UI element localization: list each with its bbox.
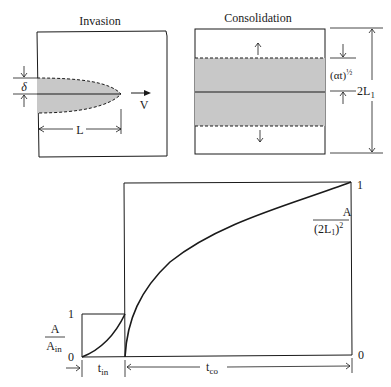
- right-axis-denominator: (2L1)2: [314, 221, 343, 237]
- consolidation-curve: [125, 182, 351, 357]
- consolidation-panel: Consolidation (αt)½ 2L1: [195, 11, 383, 154]
- left-tick-1: 1: [68, 307, 74, 321]
- time-axis: [82, 355, 352, 357]
- diagram-canvas: Invasion δ V L Consolidation: [0, 0, 391, 387]
- invasion-graph-frame: [82, 314, 125, 357]
- right-tick-1: 1: [357, 178, 363, 192]
- left-axis-denominator: Ain: [46, 339, 62, 354]
- t-in-label: tin: [98, 361, 109, 377]
- velocity-label: V: [140, 98, 149, 112]
- length-label: L: [76, 123, 83, 137]
- consolidation-graph-top: [124, 182, 351, 183]
- consolidation-title: Consolidation: [224, 11, 291, 25]
- t-co-label: tco: [206, 360, 218, 376]
- invasion-title: Invasion: [79, 14, 120, 28]
- height-label: 2L1: [357, 84, 375, 100]
- diffusion-label: (αt)½: [330, 68, 352, 82]
- right-tick-0: 0: [358, 348, 364, 362]
- left-tick-0: 0: [68, 350, 74, 364]
- right-axis-numerator: A: [343, 205, 352, 219]
- invasion-region: [37, 78, 121, 113]
- growth-graph: 1 0 A Ain 1 0 A (2L1)2 tin tco: [45, 178, 364, 377]
- left-axis-numerator: A: [51, 322, 60, 336]
- invasion-panel: Invasion δ V L: [13, 14, 167, 157]
- divider-line: [124, 183, 125, 357]
- invasion-curve: [82, 314, 125, 357]
- delta-label: δ: [21, 80, 27, 94]
